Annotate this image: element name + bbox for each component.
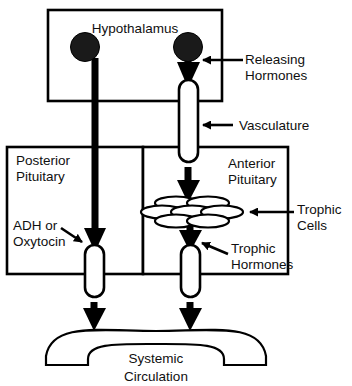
hypothalamic-pituitary-axis-diagram: Hypothalamus Posterior Pituitary Anterio… bbox=[0, 0, 352, 386]
trophic-hormones-label-line2: Hormones bbox=[231, 257, 294, 272]
posterior-pituitary-label-line2: Pituitary bbox=[16, 169, 65, 184]
posterior-to-circulation-arrow bbox=[83, 302, 106, 331]
trophic-cells-label-line1: Trophic bbox=[297, 202, 342, 217]
trophic-hormones-label-line1: Trophic bbox=[231, 241, 276, 256]
trophic-cell-cluster bbox=[141, 197, 243, 228]
anterior-to-circulation-arrow bbox=[179, 302, 202, 331]
anterior-pituitary-label-line1: Anterior bbox=[228, 156, 276, 171]
hypothalamus-label: Hypothalamus bbox=[92, 21, 179, 36]
anterior-pituitary-vessel bbox=[181, 245, 200, 297]
releasing-hormones-label-line2: Hormones bbox=[245, 68, 308, 83]
posterior-pituitary-vessel bbox=[85, 245, 104, 297]
adh-oxytocin-label-line2: Oxytocin bbox=[13, 234, 66, 249]
anterior-pituitary-label-line2: Pituitary bbox=[228, 172, 277, 187]
posterior-pituitary-label-line1: Posterior bbox=[16, 153, 71, 168]
systemic-circulation-label-line1: Systemic bbox=[129, 351, 184, 366]
systemic-circulation-label-line2: Circulation bbox=[124, 369, 188, 384]
hypophyseal-portal-vessel bbox=[179, 80, 198, 162]
neurosecretory-cell-body-left-icon bbox=[71, 33, 100, 62]
vasculature-label: Vasculature bbox=[239, 118, 309, 133]
releasing-hormones-label-line1: Releasing bbox=[245, 52, 305, 67]
trophic-cells-label-line2: Cells bbox=[297, 218, 327, 233]
diagram-canvas: Hypothalamus Posterior Pituitary Anterio… bbox=[0, 0, 352, 386]
adh-oxytocin-label-line1: ADH or bbox=[13, 218, 58, 233]
neurosecretory-cell-body-right-icon bbox=[174, 33, 203, 62]
